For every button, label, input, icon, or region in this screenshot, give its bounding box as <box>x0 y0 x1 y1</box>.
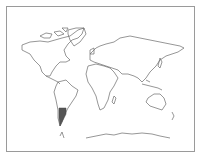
argentina-highlight <box>59 108 66 126</box>
arctic-islands <box>40 28 68 38</box>
antarctica <box>86 133 170 138</box>
australia <box>146 94 166 110</box>
eurasia <box>90 36 184 82</box>
southeast-asia-islands <box>142 80 162 90</box>
antarctic-peninsula <box>60 132 64 138</box>
madagascar <box>112 96 116 104</box>
new-zealand <box>172 112 174 120</box>
japan <box>158 58 162 68</box>
north-america <box>22 28 84 76</box>
world-map <box>0 0 201 157</box>
south-america <box>54 80 78 126</box>
